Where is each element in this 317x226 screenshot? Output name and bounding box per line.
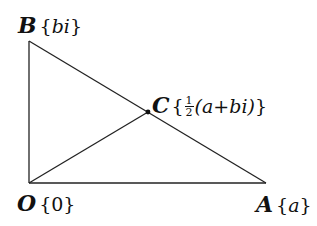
- label-C-fraction: 12: [185, 95, 194, 118]
- label-O-name: O: [17, 190, 36, 216]
- label-B-name: B: [18, 12, 37, 38]
- label-O-value: 0: [51, 193, 63, 215]
- label-A-value: a: [288, 194, 299, 216]
- segment-OC: [29, 112, 148, 183]
- label-C-name: C: [152, 92, 170, 118]
- label-B: B{bi}: [18, 14, 82, 36]
- label-C: C{12(a+bi)}: [152, 94, 267, 120]
- label-A: A{a}: [256, 193, 312, 215]
- label-B-value: bi: [52, 15, 70, 37]
- label-A-name: A: [256, 191, 273, 217]
- label-C-value: (a+bi): [195, 95, 255, 117]
- point-C-dot: [146, 110, 151, 115]
- label-O: O{0}: [17, 192, 75, 214]
